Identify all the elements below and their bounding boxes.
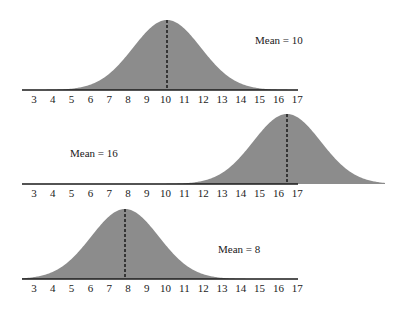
x-tick-label: 11 bbox=[179, 93, 190, 105]
x-tick-label: 10 bbox=[160, 282, 172, 294]
x-tick-label: 15 bbox=[254, 282, 266, 294]
x-tick-label: 4 bbox=[50, 282, 56, 294]
x-tick-label: 7 bbox=[106, 187, 112, 199]
x-tick-label: 11 bbox=[179, 187, 190, 199]
x-tick-label: 9 bbox=[144, 282, 150, 294]
x-tick-label: 11 bbox=[179, 282, 190, 294]
panel-mean-10: 34567891011121314151617 Mean = 10 bbox=[22, 20, 303, 105]
x-tick-labels: 34567891011121314151617 bbox=[31, 93, 303, 105]
mean-annotation: Mean = 8 bbox=[218, 243, 261, 255]
x-tick-label: 16 bbox=[273, 282, 285, 294]
x-tick-label: 13 bbox=[217, 187, 229, 199]
x-tick-label: 5 bbox=[69, 187, 75, 199]
x-tick-label: 10 bbox=[160, 93, 172, 105]
x-tick-label: 12 bbox=[198, 282, 209, 294]
x-tick-label: 16 bbox=[273, 93, 285, 105]
x-tick-label: 15 bbox=[254, 93, 266, 105]
x-tick-label: 5 bbox=[69, 93, 75, 105]
x-tick-label: 9 bbox=[144, 93, 150, 105]
x-tick-label: 13 bbox=[217, 93, 229, 105]
x-tick-label: 3 bbox=[31, 282, 37, 294]
x-tick-label: 3 bbox=[31, 93, 37, 105]
x-tick-label: 10 bbox=[160, 187, 172, 199]
x-tick-label: 17 bbox=[292, 282, 304, 294]
x-tick-label: 14 bbox=[235, 282, 247, 294]
x-tick-label: 5 bbox=[69, 282, 75, 294]
x-tick-label: 15 bbox=[254, 187, 266, 199]
normal-distributions-chart: 34567891011121314151617 Mean = 10 345678… bbox=[0, 0, 401, 309]
x-tick-label: 14 bbox=[235, 93, 247, 105]
x-tick-label: 7 bbox=[106, 93, 112, 105]
x-tick-label: 9 bbox=[144, 187, 150, 199]
x-tick-label: 7 bbox=[106, 282, 112, 294]
x-tick-label: 12 bbox=[198, 187, 209, 199]
x-tick-label: 14 bbox=[235, 187, 247, 199]
x-tick-label: 4 bbox=[50, 187, 56, 199]
x-tick-label: 17 bbox=[292, 187, 304, 199]
x-tick-label: 6 bbox=[88, 282, 94, 294]
x-tick-label: 12 bbox=[198, 93, 209, 105]
mean-annotation: Mean = 10 bbox=[255, 34, 303, 46]
x-tick-label: 8 bbox=[125, 187, 131, 199]
x-tick-label: 6 bbox=[88, 187, 94, 199]
x-tick-label: 4 bbox=[50, 93, 56, 105]
panel-mean-8: 34567891011121314151617 Mean = 8 bbox=[22, 209, 303, 294]
x-tick-label: 8 bbox=[125, 93, 131, 105]
x-tick-label: 17 bbox=[292, 93, 304, 105]
x-tick-label: 16 bbox=[273, 187, 285, 199]
x-tick-labels: 34567891011121314151617 bbox=[31, 282, 303, 294]
panel-mean-16: 34567891011121314151617 Mean = 16 bbox=[22, 114, 385, 199]
distribution-area bbox=[22, 20, 298, 90]
x-tick-label: 8 bbox=[125, 282, 131, 294]
x-tick-label: 13 bbox=[217, 282, 229, 294]
mean-annotation: Mean = 16 bbox=[70, 147, 118, 159]
x-tick-labels: 34567891011121314151617 bbox=[31, 187, 303, 199]
x-tick-label: 3 bbox=[31, 187, 37, 199]
x-tick-label: 6 bbox=[88, 93, 94, 105]
